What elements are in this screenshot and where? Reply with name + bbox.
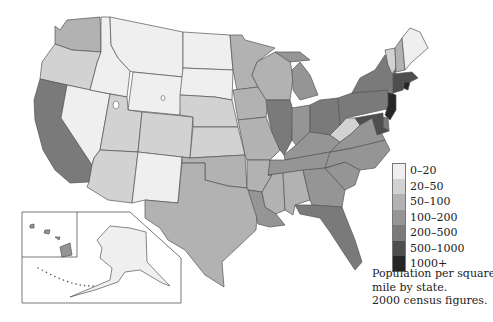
aleutian-island — [80, 284, 82, 286]
aleutian-island — [37, 267, 39, 269]
caption: Population per square mile by state. 200… — [372, 267, 492, 308]
state-ak — [70, 226, 170, 297]
legend-swatch — [392, 194, 406, 210]
aleutian-island — [84, 285, 86, 287]
legend-swatch — [392, 163, 406, 179]
legend-item: 100–200 — [392, 210, 465, 226]
state-ma — [393, 72, 418, 82]
aleutian-island — [88, 285, 90, 287]
legend-swatch — [392, 179, 406, 195]
state-nd — [183, 32, 233, 70]
state-wy — [128, 72, 183, 115]
state-az — [87, 150, 138, 203]
aleutian-island — [46, 272, 48, 274]
caption-line-3: 2000 census figures. — [372, 294, 492, 308]
state-nm — [132, 152, 182, 203]
aleutian-island — [67, 281, 69, 283]
legend-label: 20–50 — [410, 179, 444, 194]
aleutian-island — [92, 285, 94, 287]
legend-item: 500–1000 — [392, 241, 465, 257]
state-me — [402, 28, 428, 70]
state-ks — [190, 127, 245, 158]
state-ct — [393, 82, 404, 93]
legend-label: 100–200 — [410, 210, 458, 225]
state-co — [138, 112, 193, 158]
legend-swatch — [392, 241, 406, 257]
legend-label: 200–500 — [410, 225, 458, 240]
legend-item: 200–500 — [392, 225, 465, 241]
legend-label: 50–100 — [410, 194, 451, 209]
aleutian-island — [75, 283, 77, 285]
aleutian-island — [41, 269, 43, 271]
aleutian-island — [54, 276, 56, 278]
legend-item: 50–100 — [392, 194, 465, 210]
state-hi — [30, 224, 72, 257]
caption-line-1: Population per square — [372, 267, 492, 281]
legend-swatch — [392, 225, 406, 241]
aleutian-island — [50, 274, 52, 276]
state-fl — [295, 205, 362, 270]
aleutian-island — [63, 279, 65, 281]
legend-label: 0–20 — [410, 163, 437, 178]
legend-label: 500–1000 — [410, 241, 465, 256]
legend: 0–2020–5050–100100–200200–500500–1000100… — [392, 163, 465, 272]
legend-item: 20–50 — [392, 179, 465, 195]
legend-swatch — [392, 210, 406, 226]
aleutian-island — [71, 282, 73, 284]
caption-line-2: mile by state. — [372, 281, 492, 295]
legend-item: 0–20 — [392, 163, 465, 179]
aleutian-island — [58, 278, 60, 280]
